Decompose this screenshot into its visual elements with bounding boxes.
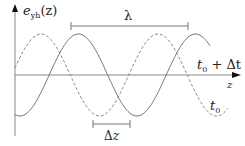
shift-bracket — [93, 120, 130, 128]
wavelength-bracket — [71, 22, 188, 30]
curve-label-t0: t0 — [210, 98, 220, 115]
curve-label-t0-plus-dt: t0 + Δt — [197, 57, 242, 74]
x-axis-label: z — [226, 79, 233, 90]
y-axis-arrow-icon — [12, 4, 18, 12]
wavelength-label: λ — [124, 8, 132, 23]
wave-diagram: λ Δz eyh(z) z t0 + Δt t0 — [0, 0, 245, 146]
x-axis-arrow-icon — [232, 72, 241, 78]
y-axis-label: eyh(z) — [23, 3, 57, 20]
shift-label: Δz — [104, 129, 120, 143]
